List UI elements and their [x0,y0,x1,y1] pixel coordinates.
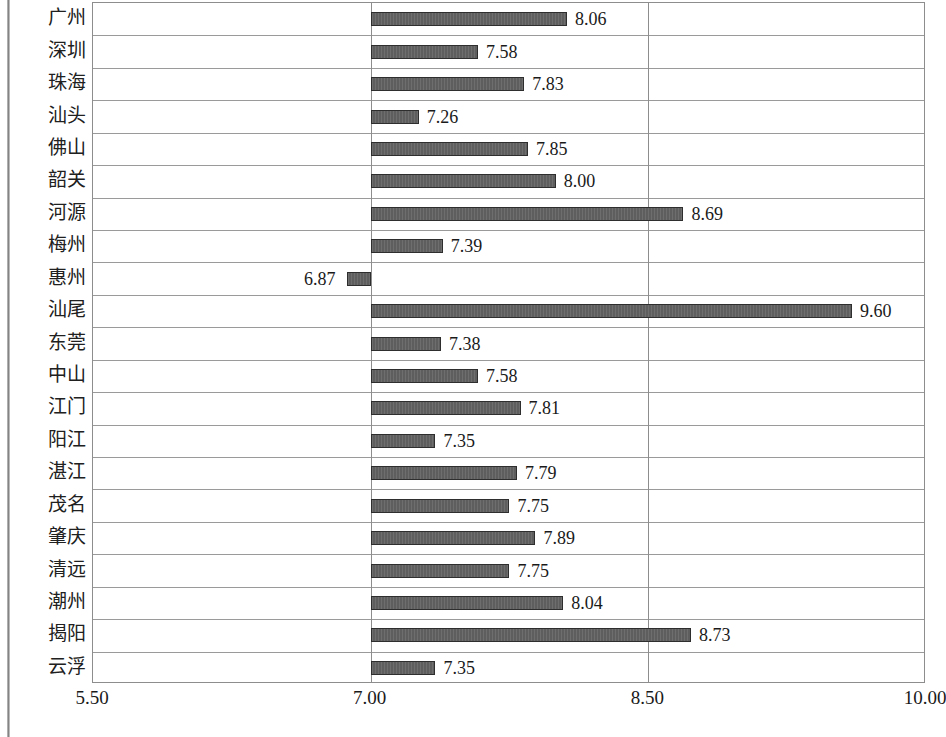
bar [371,401,521,415]
bar-value-label: 7.75 [518,562,550,580]
category-label: 惠州 [48,268,86,287]
category-label: 揭阳 [48,624,86,643]
x-tick-label: 7.00 [353,688,386,707]
bar [371,499,510,513]
bar [371,142,528,156]
bar-value-label: 7.81 [529,399,561,417]
category-label: 云浮 [48,657,86,676]
bar [371,434,436,448]
bar [371,337,441,351]
row-separator [93,262,924,263]
category-label: 珠海 [48,73,86,92]
bar-value-label: 7.38 [449,335,481,353]
category-label: 梅州 [48,235,86,254]
category-label: 清远 [48,560,86,579]
bar-value-label: 8.04 [571,594,603,612]
row-separator [93,295,924,296]
bar-value-label: 7.79 [525,464,557,482]
bar-value-label: 7.83 [532,75,564,93]
row-separator [93,230,924,231]
category-label: 阳江 [48,430,86,449]
row-separator [93,425,924,426]
row-separator [93,327,924,328]
bar-value-label: 7.89 [543,529,575,547]
bar [371,174,556,188]
row-separator [93,360,924,361]
bar-value-label: 7.35 [443,432,475,450]
bar-value-label: 7.58 [486,367,518,385]
category-label: 河源 [48,203,86,222]
row-separator [93,587,924,588]
category-label: 江门 [48,397,86,416]
row-separator [93,35,924,36]
bar [371,110,419,124]
row-separator [93,522,924,523]
category-axis-labels: 广州深圳珠海汕头佛山韶关河源梅州惠州汕尾东莞中山江门阳江湛江茂名肇庆清远潮州揭阳… [0,2,92,683]
x-tick-label: 8.50 [631,688,664,707]
row-separator [93,619,924,620]
bar-value-label: 8.00 [564,172,596,190]
bar-value-label: 6.87 [304,270,336,288]
category-label: 中山 [48,365,86,384]
x-axis-tick-labels: 5.507.008.5010.00 [0,688,940,722]
bar-value-label: 8.69 [692,205,724,223]
category-label: 广州 [48,8,86,27]
row-separator [93,489,924,490]
row-separator [93,165,924,166]
bar-value-label: 9.60 [860,302,892,320]
bar [371,12,567,26]
bar-value-label: 7.26 [427,108,459,126]
category-label: 茂名 [48,495,86,514]
row-separator [93,100,924,101]
bar-value-label: 7.58 [486,43,518,61]
bar [371,207,684,221]
bar-value-label: 7.39 [451,237,483,255]
row-separator [93,554,924,555]
category-label: 东莞 [48,333,86,352]
bar [371,466,517,480]
category-label: 潮州 [48,592,86,611]
bar [371,564,510,578]
category-label: 佛山 [48,138,86,157]
bar-value-label: 7.85 [536,140,568,158]
row-separator [93,198,924,199]
x-tick-label: 10.00 [904,688,946,707]
bar [347,272,371,286]
gridline-8.50 [648,3,649,682]
bar-value-label: 8.06 [575,10,607,28]
bar-value-label: 7.75 [518,497,550,515]
bar [371,369,478,383]
plot-area: 8.067.587.837.267.858.008.697.396.879.60… [92,2,925,683]
row-separator [93,457,924,458]
bar [371,77,525,91]
row-separator [93,133,924,134]
x-tick-label: 5.50 [75,688,108,707]
bar [371,661,436,675]
bar [371,45,478,59]
bar [371,531,536,545]
bar [371,304,852,318]
row-separator [93,68,924,69]
bar [371,596,564,610]
category-label: 韶关 [48,170,86,189]
bar [371,239,443,253]
bar-value-label: 7.35 [443,659,475,677]
category-label: 肇庆 [48,527,86,546]
bar [371,628,691,642]
category-label: 汕尾 [48,300,86,319]
bar-value-label: 8.73 [699,626,731,644]
category-label: 深圳 [48,41,86,60]
category-label: 湛江 [48,462,86,481]
row-separator [93,392,924,393]
row-separator [93,652,924,653]
category-label: 汕头 [48,106,86,125]
